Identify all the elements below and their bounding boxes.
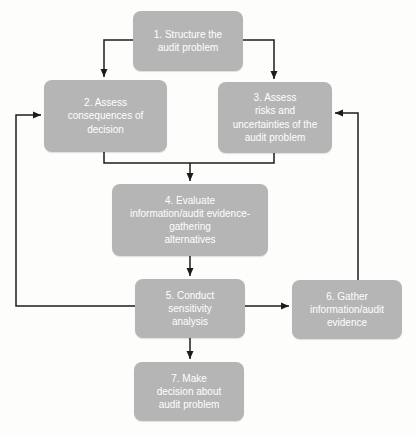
flow-box-structure-audit-problem: 1. Structure the audit problem <box>133 11 243 71</box>
flow-box-make-decision: 7. Make decision about audit problem <box>134 362 244 421</box>
flow-box-conduct-sensitivity-analysis: 5. Conduct sensitivity analysis <box>135 279 245 338</box>
edge-1-to-2 <box>104 40 133 77</box>
flowchart-canvas: 1. Structure the audit problem 2. Assess… <box>0 0 416 438</box>
flow-box-assess-risks-uncertainties: 3. Assess risks and uncertainties of the… <box>218 82 332 153</box>
edge-2-3-merge <box>104 152 274 163</box>
edge-1-to-3 <box>243 40 274 79</box>
flow-box-evaluate-evidence-alternatives: 4. Evaluate information/audit evidence- … <box>112 184 268 256</box>
edge-6-to-3 <box>335 113 358 280</box>
flow-box-assess-consequences: 2. Assess consequences of decision <box>44 80 167 152</box>
flow-box-gather-evidence: 6. Gather information/audit evidence <box>292 280 402 339</box>
